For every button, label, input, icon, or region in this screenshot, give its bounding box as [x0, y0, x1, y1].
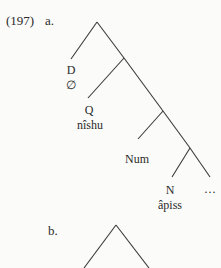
branch-node3-to-n: [172, 148, 190, 177]
branch-b-left: [84, 225, 116, 268]
node-q-value: nîshu: [77, 119, 103, 132]
branch-node3-to-ellipsis: [190, 148, 210, 177]
branch-node1-to-node2: [124, 58, 163, 111]
branch-node1-to-q: [88, 58, 124, 98]
node-ellipsis: …: [204, 183, 216, 196]
syntax-tree-branches: [0, 0, 221, 268]
node-d-label: D: [67, 64, 76, 77]
node-n-label: N: [166, 184, 175, 197]
branch-node2-to-num: [138, 111, 163, 139]
branch-root-to-d: [71, 22, 97, 59]
node-q-label: Q: [85, 104, 94, 117]
node-num-label: Num: [125, 153, 149, 166]
node-n-value: âpiss: [158, 199, 182, 212]
branch-node2-to-node3: [163, 111, 190, 148]
book-page: (197) a. b. D ∅ Q nîshu Num N âpiss …: [0, 0, 221, 268]
branch-root-to-node1: [97, 22, 124, 58]
node-d-null-value: ∅: [66, 79, 76, 92]
branch-b-right: [116, 225, 149, 268]
